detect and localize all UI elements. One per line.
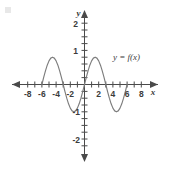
x-tick-labels: -8 -6 -4 -2 2 4 6 8 xyxy=(24,89,144,99)
x-tick-label: 2 xyxy=(96,89,101,99)
corner-artifact xyxy=(5,7,11,13)
y-tick-labels: 2 1 -1 -2 xyxy=(72,19,80,145)
y-tick-label: 1 xyxy=(73,46,78,56)
x-tick-label: 4 xyxy=(111,89,116,99)
x-tick-label: 8 xyxy=(139,89,144,99)
y-axis-label: y xyxy=(76,8,82,18)
x-tick-label: -8 xyxy=(24,89,32,99)
x-tick-label: 6 xyxy=(125,89,130,99)
x-tick-label: -6 xyxy=(38,89,46,99)
y-axis-up-arrow xyxy=(81,10,88,18)
function-graph: -8 -6 -4 -2 2 4 6 8 2 1 -1 -2 y x y = f(… xyxy=(0,0,170,172)
y-axis-down-arrow xyxy=(81,154,88,162)
y-tick-label: -1 xyxy=(72,107,80,117)
x-tick-label: -4 xyxy=(52,89,60,99)
y-tick-label: -2 xyxy=(72,135,80,145)
x-axis-label: x xyxy=(150,87,156,97)
x-axis-left-arrow xyxy=(12,81,20,88)
function-annotation-label: y = f(x) xyxy=(112,52,140,62)
x-tick-label: -2 xyxy=(67,89,75,99)
y-tick-label: 2 xyxy=(73,19,78,29)
